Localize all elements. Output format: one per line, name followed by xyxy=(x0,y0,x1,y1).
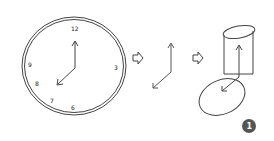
step-number-badge: 1 xyxy=(242,119,256,133)
base-ellipse xyxy=(193,71,251,122)
isolated-hands xyxy=(153,44,171,88)
clock-number-9: 9 xyxy=(28,61,32,68)
clock-number-8: 8 xyxy=(35,80,39,87)
cylinder-projection-figure xyxy=(193,23,256,122)
projected-hands xyxy=(222,46,239,91)
clock-number-12: 12 xyxy=(71,25,79,32)
step-arrow-icon xyxy=(133,52,143,64)
hands-vector-figure xyxy=(153,43,174,88)
diagram-svg: 12 3 6 7 8 9 xyxy=(0,0,274,141)
diagram-canvas: 12 3 6 7 8 9 xyxy=(0,0,274,141)
clock-figure: 12 3 6 7 8 9 xyxy=(22,17,126,115)
cylinder-top-ellipse xyxy=(222,23,256,40)
badge-label: 1 xyxy=(247,122,253,131)
clock-number-7: 7 xyxy=(50,97,54,104)
clock-inner-rim xyxy=(25,20,124,113)
step-arrow-icon xyxy=(193,52,203,64)
clock-hands xyxy=(58,42,75,84)
clock-number-6: 6 xyxy=(71,104,75,111)
clock-number-3: 3 xyxy=(114,64,118,71)
